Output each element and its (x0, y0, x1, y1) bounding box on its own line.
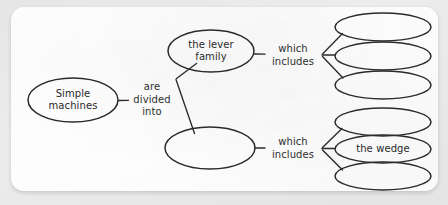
edge-includes-bottom-3 (323, 150, 343, 170)
node-lever-child-2 (335, 42, 431, 70)
concept-map-diagram (0, 0, 448, 205)
node-lever-child-1 (335, 13, 431, 41)
edge-includes-bottom-1 (323, 129, 343, 148)
edge-divided-to-second (176, 80, 195, 134)
node-simple-machines (28, 78, 118, 122)
node-second-child-1 (335, 108, 431, 136)
node-second-child-3 (335, 162, 431, 190)
edge-includes-top-1 (323, 34, 343, 55)
screenshot-stage: Simple machines the lever family the wed… (0, 0, 448, 205)
node-the-wedge (335, 135, 431, 163)
node-lever-child-3 (335, 71, 431, 99)
node-second-family (165, 127, 255, 169)
edge-includes-top-3 (323, 57, 344, 79)
node-lever-family (168, 30, 254, 72)
